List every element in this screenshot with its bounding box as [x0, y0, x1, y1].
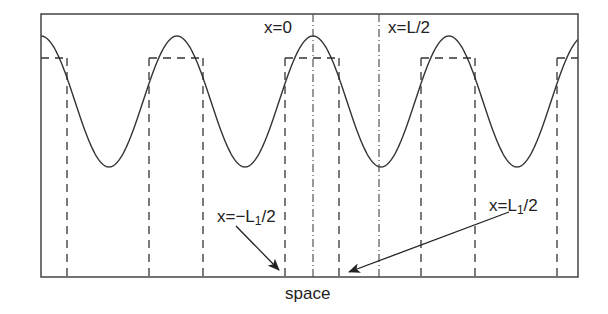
plot-frame	[41, 14, 578, 277]
diagram-canvas	[0, 0, 608, 314]
annotation-arrow	[236, 226, 279, 270]
label-neg-half-width-main: x=−L	[217, 207, 255, 226]
label-x-half-period: x=L/2	[388, 19, 430, 36]
label-pos-half-width-tail: /2	[524, 196, 538, 215]
label-x-zero: x=0	[264, 19, 292, 36]
label-pos-half-width: x=L1/2	[489, 197, 538, 214]
label-neg-half-width-sub: 1	[255, 214, 262, 228]
label-neg-half-width: x=−L1/2	[217, 208, 276, 225]
label-pos-half-width-main: x=L	[489, 196, 517, 215]
reference-lines	[313, 14, 379, 277]
label-neg-half-width-tail: /2	[262, 207, 276, 226]
annotation-arrow	[349, 212, 509, 272]
x-axis-label: space	[285, 285, 330, 302]
annotation-arrows	[236, 212, 509, 272]
cosine-curve	[41, 36, 578, 167]
label-pos-half-width-sub: 1	[517, 203, 524, 217]
step-function-dashed	[41, 58, 578, 277]
